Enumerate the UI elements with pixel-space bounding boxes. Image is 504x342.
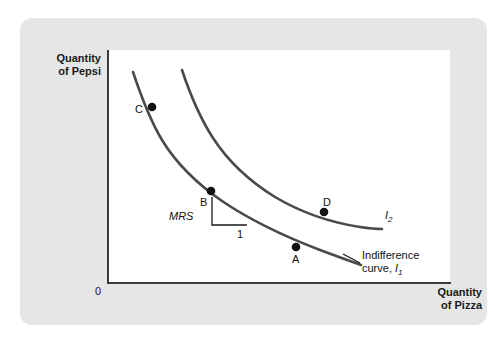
- indifference-curve-label-line2: curve, I1: [362, 262, 419, 279]
- data-point-b: [207, 187, 216, 196]
- mrs-label: MRS: [169, 210, 193, 222]
- origin-label: 0: [95, 285, 101, 297]
- data-point-a: [292, 243, 301, 252]
- x-axis-label: Quantity of Pizza: [340, 286, 482, 312]
- figure-container: Quantity of Pepsi Quantity of Pizza 0 C …: [0, 0, 504, 342]
- indifference-curve-label: Indifference curve, I1: [362, 249, 419, 279]
- data-point-d: [320, 208, 329, 217]
- point-label-d: D: [323, 196, 331, 208]
- mrs-bracket: [212, 197, 247, 225]
- mrs-run-label: 1: [237, 228, 243, 240]
- indifference-curve-subscript: 1: [398, 268, 402, 277]
- x-axis-label-line2: of Pizza: [340, 299, 482, 312]
- indifference-curve-i1: [133, 72, 361, 265]
- y-axis-label-line2: of Pepsi: [0, 65, 101, 78]
- y-axis-label: Quantity of Pepsi: [0, 52, 101, 78]
- point-label-a: A: [292, 253, 299, 265]
- point-label-b: B: [200, 196, 207, 208]
- data-point-c: [148, 103, 157, 112]
- i2-subscript: 2: [388, 215, 392, 224]
- i2-curve-label: I2: [385, 209, 393, 226]
- indifference-curve-label-text: curve,: [362, 262, 395, 274]
- point-label-c: C: [135, 103, 143, 115]
- x-axis-label-line1: Quantity: [340, 286, 482, 299]
- indifference-curve-label-line1: Indifference: [362, 249, 419, 262]
- y-axis-label-line1: Quantity: [0, 52, 101, 65]
